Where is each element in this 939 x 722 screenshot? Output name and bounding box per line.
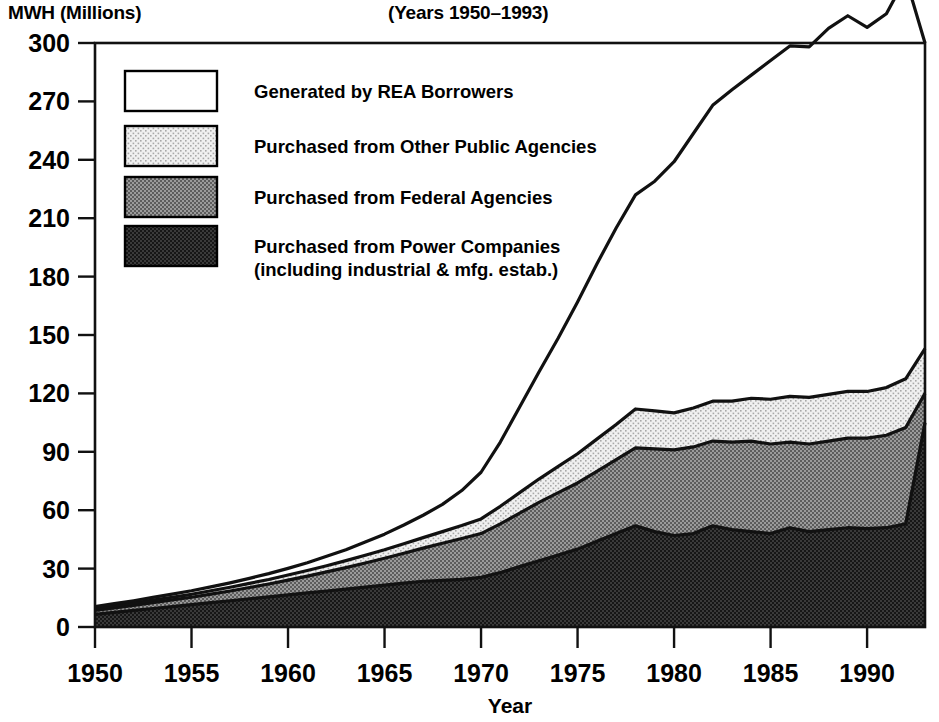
legend-swatch-3	[125, 226, 217, 266]
chart-legend: Generated by REA BorrowersPurchased from…	[125, 71, 597, 280]
x-tick-label-1960: 1960	[260, 659, 316, 687]
y-tick-label-180: 180	[28, 263, 70, 291]
y-tick-label-30: 30	[42, 555, 70, 583]
y-tick-label-240: 240	[28, 146, 70, 174]
x-tick-label-1965: 1965	[357, 659, 413, 687]
legend-label-3-line2: (including industrial & mfg. estab.)	[254, 259, 558, 280]
y-tick-label-300: 300	[28, 29, 70, 57]
legend-label-3: Purchased from Power Companies	[254, 236, 560, 257]
y-tick-label-210: 210	[28, 204, 70, 232]
y-axis-tick-labels: 0306090120150180210240270300	[28, 29, 70, 641]
y-axis-title: MWH (Millions)	[8, 2, 141, 24]
chart-title: (Years 1950–1993)	[388, 2, 548, 24]
x-tick-label-1970: 1970	[453, 659, 509, 687]
x-tick-label-1975: 1975	[550, 659, 606, 687]
x-tick-label-1980: 1980	[646, 659, 702, 687]
y-tick-label-150: 150	[28, 321, 70, 349]
x-tick-label-1990: 1990	[839, 659, 895, 687]
stacked-area-chart: 0306090120150180210240270300 19501955196…	[0, 0, 939, 722]
legend-swatch-2	[125, 177, 217, 217]
y-tick-label-60: 60	[42, 496, 70, 524]
x-tick-label-1955: 1955	[164, 659, 220, 687]
legend-label-2: Purchased from Federal Agencies	[254, 187, 553, 208]
x-tick-label-1985: 1985	[743, 659, 799, 687]
y-tick-label-120: 120	[28, 379, 70, 407]
y-tick-label-90: 90	[42, 438, 70, 466]
legend-swatch-1	[125, 126, 217, 166]
legend-label-0: Generated by REA Borrowers	[254, 81, 513, 102]
chart-figure: MWH (Millions) (Years 1950–1993)	[0, 0, 939, 722]
legend-swatch-0	[125, 71, 217, 111]
legend-label-1: Purchased from Other Public Agencies	[254, 136, 597, 157]
x-tick-label-1950: 1950	[67, 659, 123, 687]
y-tick-label-270: 270	[28, 87, 70, 115]
x-axis-ticks	[95, 627, 867, 648]
x-axis-label: Year	[488, 694, 532, 717]
y-tick-label-0: 0	[56, 613, 70, 641]
x-axis-tick-labels: 195019551960196519701975198019851990	[67, 659, 895, 687]
y-axis-ticks	[78, 43, 95, 627]
